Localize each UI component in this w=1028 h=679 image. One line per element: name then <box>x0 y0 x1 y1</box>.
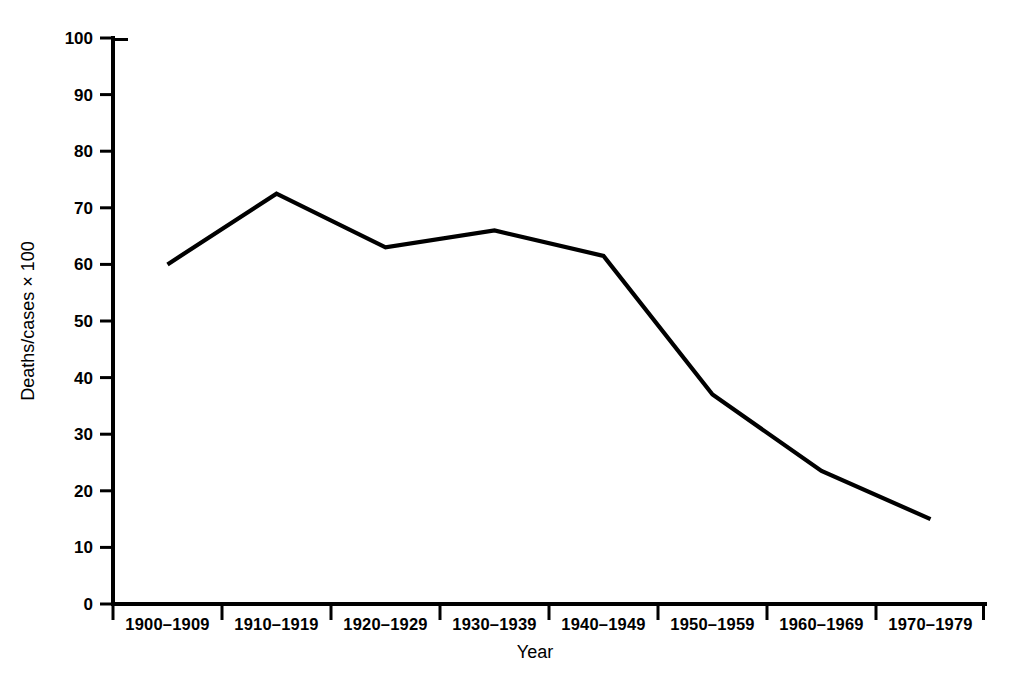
x-axis-category-label: 1970–1979 <box>888 615 972 633</box>
x-axis-category-label: 1930–1939 <box>452 615 536 633</box>
y-axis-tick-label: 60 <box>74 255 93 274</box>
x-axis-category-label: 1950–1959 <box>670 615 754 633</box>
x-axis-category-label: 1940–1949 <box>561 615 645 633</box>
x-axis-category-label: 1920–1929 <box>343 615 427 633</box>
x-axis-category-label: 1910–1919 <box>234 615 318 633</box>
x-axis-category-label: 1960–1969 <box>779 615 863 633</box>
x-axis-category-label: 1900–1909 <box>125 615 209 633</box>
data-series-line <box>168 194 931 519</box>
y-axis-tick-label: 80 <box>74 142 93 161</box>
y-axis-tick-label: 100 <box>65 29 93 48</box>
y-axis-tick-label: 50 <box>74 312 93 331</box>
x-axis-title: Year <box>517 642 553 662</box>
y-axis-tick-labels: 0102030405060708090100 <box>65 29 93 614</box>
y-axis-tick-label: 30 <box>74 425 93 444</box>
y-axis-tick-label: 0 <box>84 595 93 614</box>
y-axis-tick-label: 90 <box>74 86 93 105</box>
line-chart: 0102030405060708090100 1900–19091910–191… <box>0 0 1028 679</box>
y-axis-tick-label: 20 <box>74 482 93 501</box>
y-axis-tick-label: 10 <box>74 538 93 557</box>
y-axis-tick-label: 70 <box>74 199 93 218</box>
y-axis-tick-label: 40 <box>74 369 93 388</box>
y-axis-title: Deaths/cases × 100 <box>18 241 38 401</box>
chart-canvas: 0102030405060708090100 1900–19091910–191… <box>0 0 1028 679</box>
